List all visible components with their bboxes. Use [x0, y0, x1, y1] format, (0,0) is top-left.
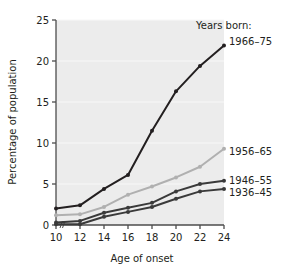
x-tick-label: 24 — [218, 232, 231, 243]
series-label: 1936–45 — [229, 187, 272, 198]
data-point — [198, 165, 202, 169]
plot-area-background — [56, 20, 224, 225]
x-tick-label: 10 — [50, 232, 63, 243]
data-point — [222, 147, 226, 151]
y-tick-label: 10 — [36, 138, 49, 149]
data-point — [78, 222, 82, 226]
data-point — [78, 203, 82, 207]
x-tick-label: 18 — [146, 232, 159, 243]
legend-heading: Years born: — [195, 20, 252, 31]
data-point — [222, 179, 226, 183]
data-point — [126, 206, 130, 210]
y-tick-label: 0 — [43, 220, 49, 231]
x-tick-label: 22 — [194, 232, 207, 243]
data-point — [126, 193, 130, 197]
series-label: 1956–65 — [229, 146, 272, 157]
data-point — [54, 213, 58, 217]
x-axis-tick-labels: 1012141618202224 — [50, 232, 231, 243]
data-point — [174, 197, 178, 201]
data-point — [54, 222, 58, 226]
data-point — [102, 187, 106, 191]
data-point — [198, 64, 202, 68]
data-point — [198, 182, 202, 186]
data-point — [150, 184, 154, 188]
line-chart: 0510152025 1012141618202224 Age of onset… — [0, 0, 292, 272]
data-point — [222, 43, 226, 47]
data-point — [102, 211, 106, 215]
x-tick-label: 20 — [170, 232, 183, 243]
y-axis-tick-labels: 0510152025 — [36, 15, 49, 231]
chart-container: 0510152025 1012141618202224 Age of onset… — [0, 0, 292, 272]
data-point — [150, 205, 154, 209]
x-tick-label: 16 — [122, 232, 135, 243]
data-point — [102, 215, 106, 219]
data-point — [78, 212, 82, 216]
y-tick-label: 5 — [43, 179, 49, 190]
y-tick-label: 25 — [36, 15, 49, 26]
x-axis-title: Age of onset — [110, 253, 173, 264]
series-label: 1946–55 — [229, 175, 272, 186]
series-label: 1966–75 — [229, 36, 272, 47]
x-tick-label: 14 — [98, 232, 111, 243]
data-point — [150, 201, 154, 205]
data-point — [174, 89, 178, 93]
y-axis-title: Percentage of population — [7, 59, 18, 184]
data-point — [126, 173, 130, 177]
data-point — [102, 205, 106, 209]
data-point — [54, 207, 58, 211]
data-point — [150, 129, 154, 133]
data-point — [174, 189, 178, 193]
data-point — [198, 189, 202, 193]
data-point — [222, 187, 226, 191]
x-tick-label: 12 — [74, 232, 87, 243]
data-point — [174, 175, 178, 179]
series-inline-labels: 1966–751956–651946–551936–45 — [229, 36, 272, 199]
data-point — [126, 210, 130, 214]
y-tick-label: 20 — [36, 56, 49, 67]
y-tick-label: 15 — [36, 97, 49, 108]
